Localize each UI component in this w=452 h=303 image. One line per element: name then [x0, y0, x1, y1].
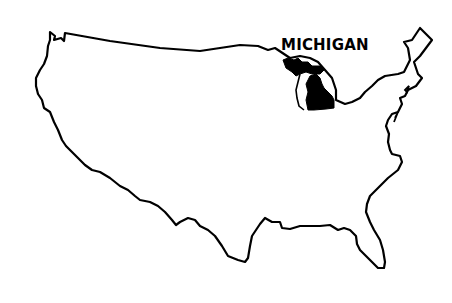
michigan-lower-peninsula: [306, 74, 334, 110]
us-map: [0, 0, 452, 303]
state-label-michigan: MICHIGAN: [281, 36, 369, 54]
us-outline: [36, 28, 432, 268]
lake-michigan-shore: [296, 74, 304, 110]
